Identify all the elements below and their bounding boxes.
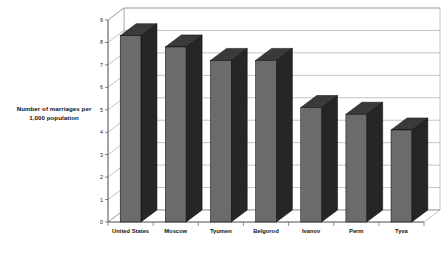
bar-chart-figure: Number of marriages per 1,000 population… (0, 0, 444, 254)
bar-side-face (231, 48, 247, 222)
bar-side-face (276, 48, 292, 222)
bar-column (301, 96, 338, 222)
bar-side-face (322, 96, 338, 222)
y-axis-tick-label: 4 (100, 129, 103, 135)
x-axis-category-label: Ivanov (302, 228, 321, 234)
bar-front-face (256, 60, 277, 222)
bar-front-face (120, 36, 141, 222)
y-axis-tick-label: 0 (100, 219, 103, 225)
y-axis-tick-label: 9 (100, 17, 103, 23)
x-axis-category-label: Tyumen (210, 228, 232, 234)
y-axis-tick-label: 1 (100, 197, 103, 203)
bar-side-face (186, 35, 202, 222)
x-axis-category-label: United States (112, 228, 149, 234)
bar-side-face (141, 24, 157, 222)
bar-front-face (165, 47, 186, 222)
y-axis-tick-label: 8 (100, 39, 103, 45)
y-axis-tick-label: 5 (100, 107, 103, 113)
bar-side-face (367, 102, 383, 222)
bar-front-face (391, 130, 412, 222)
bar-side-face (412, 118, 428, 222)
bar-column (120, 24, 157, 222)
y-axis-tick-label: 3 (100, 152, 103, 158)
x-axis-category-label: Belgorod (253, 228, 279, 234)
bar-column (210, 48, 247, 222)
y-axis-tick-label: 2 (100, 174, 103, 180)
x-axis-category-label: Perm (349, 228, 364, 234)
bar-front-face (210, 60, 231, 222)
bar-column (165, 35, 202, 222)
plot-area: 0123456789United StatesMoscowTyumenBelgo… (0, 0, 444, 254)
y-axis-tick-label: 6 (100, 84, 103, 90)
bar-column (346, 102, 383, 222)
x-axis-category-label: Moscow (164, 228, 187, 234)
x-axis-category-label: Tyva (395, 228, 409, 234)
bar-column (256, 48, 293, 222)
y-axis-tick-label: 7 (100, 62, 103, 68)
bar-front-face (346, 114, 367, 222)
bar-column (391, 118, 428, 222)
bar-front-face (301, 108, 322, 222)
